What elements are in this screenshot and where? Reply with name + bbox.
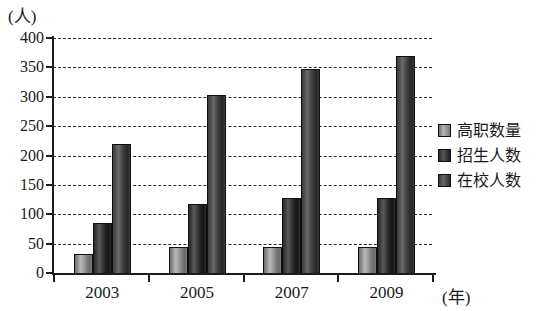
x-tick-mark <box>53 275 55 282</box>
bar <box>377 198 396 273</box>
legend-swatch-icon <box>438 174 451 187</box>
bar <box>301 69 320 273</box>
y-tick-label: 350 <box>0 59 44 75</box>
chart-legend: 高职数量招生人数在校人数 <box>438 118 554 193</box>
bar <box>112 144 131 273</box>
plot-area <box>53 38 432 273</box>
y-tick-label: 250 <box>0 118 44 134</box>
x-tick-label: 2009 <box>347 283 427 303</box>
bar <box>263 247 282 273</box>
bar <box>93 223 112 273</box>
x-tick-mark <box>148 275 150 282</box>
bar <box>169 247 188 273</box>
gridline <box>53 38 432 39</box>
y-tick-label: 300 <box>0 89 44 105</box>
y-tick-label: 400 <box>0 30 44 46</box>
bar <box>358 247 377 273</box>
gridline <box>53 185 432 186</box>
y-tick-label: 0 <box>0 265 44 281</box>
legend-item-label: 高职数量 <box>457 123 521 139</box>
y-axis-unit-label: (人) <box>8 2 36 27</box>
bar <box>282 198 301 273</box>
y-tick-label: 50 <box>0 236 44 252</box>
bar-chart: (人) 050100150200250300350400 20032005200… <box>0 0 554 311</box>
x-tick-label: 2005 <box>157 283 237 303</box>
x-axis-unit-label: (年) <box>442 283 470 308</box>
x-tick-label: 2003 <box>62 283 142 303</box>
bar <box>188 204 207 273</box>
legend-swatch-icon <box>438 124 451 137</box>
gridline <box>53 126 432 127</box>
gridline <box>53 67 432 68</box>
x-tick-mark <box>337 275 339 282</box>
gridline <box>53 97 432 98</box>
legend-item: 高职数量 <box>438 118 554 143</box>
x-tick-label: 2007 <box>252 283 332 303</box>
gridline <box>53 214 432 215</box>
gridline <box>53 156 432 157</box>
y-tick-label: 150 <box>0 177 44 193</box>
legend-item-label: 招生人数 <box>457 148 521 164</box>
x-tick-mark <box>243 275 245 282</box>
x-tick-mark <box>432 275 434 282</box>
legend-item: 招生人数 <box>438 143 554 168</box>
legend-item-label: 在校人数 <box>457 173 521 189</box>
bar <box>207 95 226 273</box>
legend-swatch-icon <box>438 149 451 162</box>
legend-item: 在校人数 <box>438 168 554 193</box>
y-tick-label: 100 <box>0 206 44 222</box>
bar <box>396 56 415 273</box>
y-tick-label: 200 <box>0 148 44 164</box>
bar <box>74 254 93 273</box>
y-axis-tick-labels: 050100150200250300350400 <box>0 38 44 273</box>
